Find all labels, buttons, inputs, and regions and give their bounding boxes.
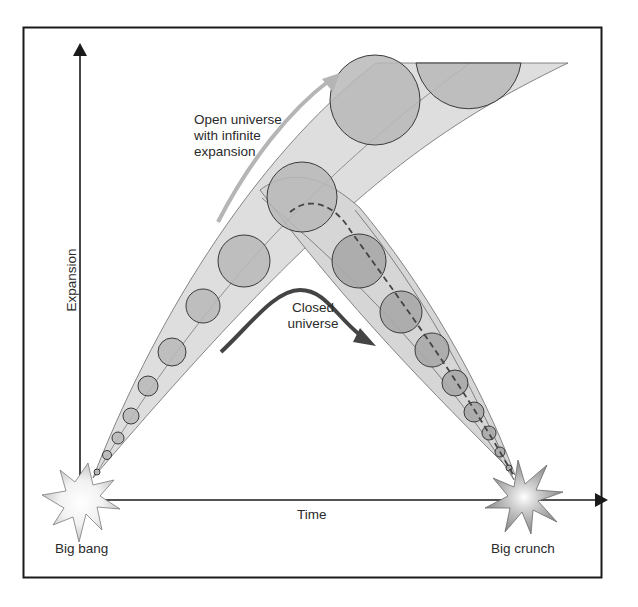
closed-universe-label: Closed universe: [278, 300, 348, 332]
open-universe-label: Open universe with infinite expansion: [194, 112, 304, 160]
closed-universe-circles: [332, 234, 512, 471]
big-bang-label: Big bang: [55, 541, 108, 557]
open-label-line-3: expansion: [194, 144, 304, 160]
big-bang-star-icon: [42, 463, 120, 542]
open-label-line-1: Open universe: [194, 112, 304, 128]
closed-label-line-1: Closed: [278, 300, 348, 316]
closed-label-line-2: universe: [278, 316, 348, 332]
y-axis-label: Expansion: [64, 230, 80, 330]
x-axis-label: Time: [297, 507, 327, 523]
open-label-line-2: with infinite: [194, 128, 304, 144]
big-crunch-star-icon: [485, 460, 563, 534]
big-crunch-label: Big crunch: [491, 541, 555, 557]
